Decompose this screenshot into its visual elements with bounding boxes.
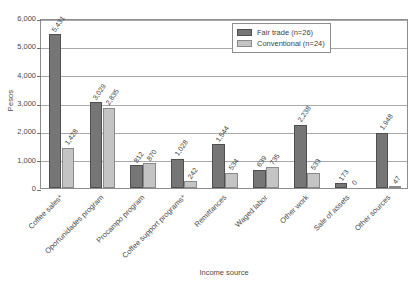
- x-axis-category-labels: Coffee sales*Oportunidades programProcam…: [40, 189, 408, 259]
- bar-conventional: [307, 173, 320, 188]
- bar-value-label: 735: [268, 152, 280, 166]
- bar-group: 5,4311,428: [41, 20, 82, 188]
- x-axis-title: Income source: [40, 268, 408, 277]
- bar-conventional: [225, 173, 238, 188]
- x-axis-category-label: Waged labor: [233, 193, 269, 229]
- x-axis-category-label: Other sources: [352, 193, 392, 233]
- chart-legend: Fair trade (n=26)Conventional (n=24): [232, 23, 331, 53]
- bar-group: 1730: [327, 20, 368, 188]
- y-axis-tick-labels: 01,0002,0003,0004,0005,0006,000: [0, 0, 36, 293]
- bar-group: 1,028242: [164, 20, 205, 188]
- bar-value-label: 1,948: [378, 113, 394, 131]
- legend-swatch-icon: [237, 29, 252, 36]
- bar-value-label: 1,028: [173, 139, 189, 157]
- bar-fair-trade: [130, 165, 143, 188]
- bar-fair-trade: [212, 144, 225, 188]
- y-axis-tick-label: 4,000: [6, 72, 36, 80]
- legend-item: Fair trade (n=26): [237, 27, 325, 38]
- bar-value-label: 47: [391, 175, 401, 185]
- bar-value-label: 1,544: [214, 124, 230, 142]
- plot-area: 5,4311,4283,0292,8358128701,0282421,5445…: [40, 19, 408, 189]
- bar-value-label: 3,029: [92, 82, 108, 100]
- bar-value-label: 1,428: [64, 128, 80, 146]
- y-axis-tick-label: 5,000: [6, 43, 36, 51]
- bar-conventional: [266, 167, 279, 188]
- bar-group: 1,94847: [368, 20, 409, 188]
- x-axis-category-label: Remittances: [193, 193, 229, 229]
- bar-value-label: 870: [145, 148, 157, 162]
- y-axis-tick-label: 6,000: [6, 15, 36, 23]
- y-axis-tick-label: 0: [6, 185, 36, 193]
- bar-conventional: [184, 181, 197, 188]
- y-axis-tick-label: 3,000: [6, 100, 36, 108]
- bar-fair-trade: [376, 133, 389, 188]
- y-axis-tick-label: 2,000: [6, 128, 36, 136]
- bar-conventional: [62, 148, 75, 188]
- bar-value-label: 533: [309, 158, 321, 172]
- y-axis-tick-label: 1,000: [6, 157, 36, 165]
- bar-conventional: [103, 108, 116, 188]
- legend-label: Fair trade (n=26): [257, 28, 313, 37]
- bar-value-label: 2,238: [296, 105, 312, 123]
- bar-value-label: 173: [337, 168, 349, 182]
- legend-label: Conventional (n=24): [257, 39, 325, 48]
- bar-value-label: 534: [227, 158, 239, 172]
- x-axis-category-label: Sale of assets: [311, 193, 351, 233]
- bar-group: 3,0292,835: [82, 20, 123, 188]
- bar-conventional: [143, 163, 156, 188]
- bar-value-label: 2,835: [105, 88, 121, 106]
- bar-group: 812870: [123, 20, 164, 188]
- bar-chart: Pesos 01,0002,0003,0004,0005,0006,000 5,…: [0, 0, 413, 293]
- bar-value-label: 242: [186, 166, 198, 180]
- bar-value-label: 5,431: [51, 14, 67, 32]
- bar-value-label: 812: [132, 150, 144, 164]
- bar-fair-trade: [294, 125, 307, 188]
- bar-fair-trade: [90, 102, 103, 188]
- legend-item: Conventional (n=24): [237, 38, 325, 49]
- bar-fair-trade: [335, 183, 348, 188]
- x-axis-category-label: Other work: [278, 193, 310, 225]
- bar-fair-trade: [49, 34, 62, 188]
- bar-conventional: [389, 186, 402, 188]
- bar-value-label: 0: [350, 178, 358, 185]
- bar-fair-trade: [171, 159, 184, 188]
- legend-swatch-icon: [237, 40, 252, 47]
- bar-fair-trade: [253, 170, 266, 188]
